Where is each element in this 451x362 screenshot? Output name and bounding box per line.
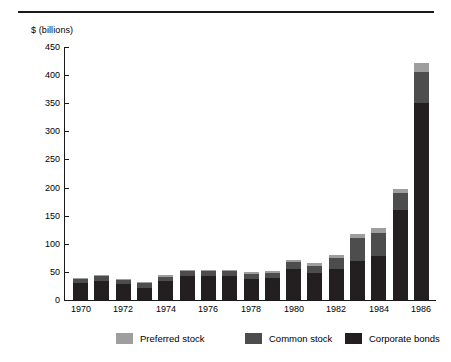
bar-column <box>286 260 301 300</box>
bar-segment <box>222 276 237 300</box>
bar-segment <box>286 269 301 300</box>
bar-segment <box>265 278 280 300</box>
bar-segment <box>158 281 173 300</box>
header-rule <box>18 11 434 13</box>
bar-segment <box>286 262 301 269</box>
bar-segment <box>73 283 88 300</box>
bar-segment <box>329 269 344 300</box>
bar-segment <box>350 238 365 260</box>
legend-label: Corporate bonds <box>369 333 440 345</box>
bar-column <box>371 228 386 301</box>
chart-figure: $ (billions) 050100150200250300350400450… <box>0 0 451 362</box>
bar-segment <box>371 233 386 257</box>
y-axis-tick-label: 200 <box>20 184 60 193</box>
legend-label: Preferred stock <box>140 333 204 345</box>
y-axis-tick-label: 50 <box>20 268 60 277</box>
x-axis-tick-label: 1970 <box>61 304 101 314</box>
bar-segment <box>244 279 259 300</box>
y-axis-title: $ (billions) <box>31 25 73 36</box>
y-axis-tick <box>64 300 69 301</box>
bar-column <box>393 189 408 300</box>
legend-swatch-icon <box>116 333 133 344</box>
bar-column <box>201 270 216 300</box>
bar-segment <box>116 284 131 300</box>
bar-column <box>116 279 131 300</box>
x-axis-tick-label: 1986 <box>401 304 441 314</box>
x-axis-line <box>64 300 436 301</box>
bar-column <box>244 272 259 300</box>
bar-column <box>307 263 322 300</box>
bar-segment <box>414 72 429 103</box>
x-axis-tick-label: 1982 <box>316 304 356 314</box>
y-axis-tick-label: 400 <box>20 71 60 80</box>
bar-segment <box>350 261 365 300</box>
legend-label: Common stock <box>269 333 332 345</box>
bar-segment <box>393 210 408 300</box>
x-axis-tick-label: 1978 <box>231 304 271 314</box>
bar-segment <box>329 258 344 269</box>
bar-column <box>329 255 344 300</box>
y-axis-tick-label: 450 <box>20 43 60 52</box>
y-axis-tick-label: 100 <box>20 240 60 249</box>
bar-column <box>350 234 365 300</box>
bar-column <box>414 63 429 300</box>
bar-column <box>73 278 88 300</box>
bar-segment <box>201 276 216 300</box>
legend-swatch-icon <box>245 333 262 344</box>
bar-segment <box>137 288 152 300</box>
bar-column <box>137 282 152 300</box>
bar-column <box>158 275 173 300</box>
x-axis-tick-label: 1972 <box>103 304 143 314</box>
bar-segment <box>307 273 322 300</box>
bar-segment <box>371 256 386 300</box>
bar-segment <box>393 193 408 210</box>
bar-segment <box>180 276 195 300</box>
bar-column <box>180 270 195 300</box>
legend-swatch-icon <box>345 333 362 344</box>
y-axis-tick-label: 0 <box>20 296 60 305</box>
x-axis-tick-label: 1980 <box>274 304 314 314</box>
bar-segment <box>94 281 109 300</box>
x-axis-tick-label: 1974 <box>146 304 186 314</box>
bar-segment <box>414 103 429 300</box>
x-axis-tick-label: 1976 <box>188 304 228 314</box>
bar-column <box>94 275 109 300</box>
y-axis-tick-label: 150 <box>20 212 60 221</box>
y-axis-tick-label: 250 <box>20 155 60 164</box>
bar-series-group <box>64 47 436 300</box>
chart-legend: Preferred stockCommon stockCorporate bon… <box>0 332 451 348</box>
bar-segment <box>414 63 429 73</box>
x-axis-tick-label: 1984 <box>359 304 399 314</box>
bar-column <box>222 270 237 300</box>
bar-column <box>265 271 280 300</box>
y-axis-tick-label: 300 <box>20 127 60 136</box>
bar-segment <box>307 266 322 273</box>
y-axis-tick-label: 350 <box>20 99 60 108</box>
